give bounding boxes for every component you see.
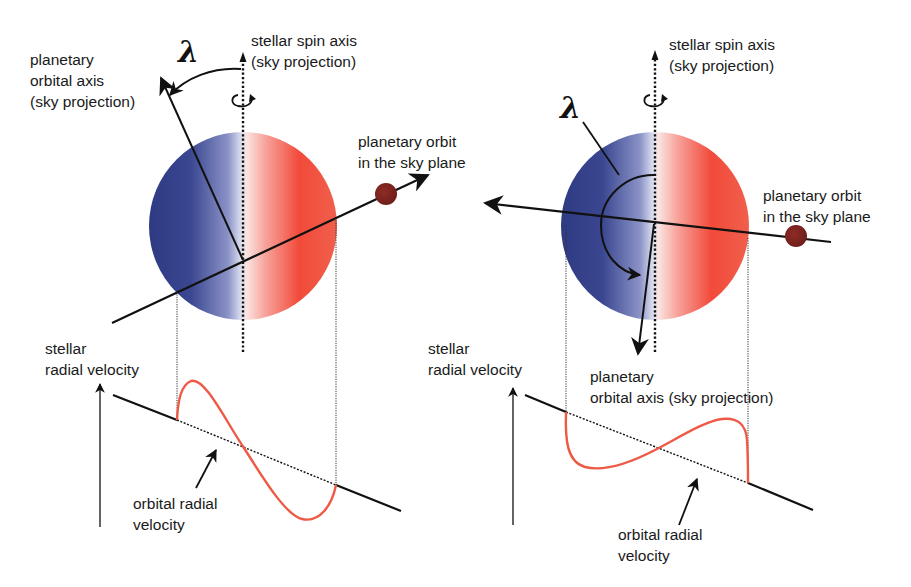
star-disk	[561, 132, 749, 320]
orbital-rv-line-before	[113, 395, 177, 420]
lambda-symbol: λ	[176, 34, 199, 69]
orbit-label-line1: planetary orbit	[763, 187, 862, 204]
orbit-label-line1: planetary orbit	[358, 133, 457, 150]
orbital-axis-label-line3: (sky projection)	[30, 93, 135, 110]
spin-axis-arrowhead-icon	[240, 52, 247, 62]
orbital-rv-label-line2: velocity	[133, 516, 185, 533]
orbital-axis-label: planetary orbital axis (sky projection)	[30, 51, 135, 110]
orbital-axis-label-line1: planetary	[30, 51, 94, 68]
orbital-rv-label: orbital radial velocity	[618, 526, 707, 564]
orbit-label: planetary orbit in the sky plane	[763, 187, 871, 225]
stellar-rv-label-line1: stellar	[428, 340, 469, 357]
orbital-axis-label: planetary orbital axis (sky projection)	[590, 368, 773, 406]
stellar-rv-label-line2: radial velocity	[428, 361, 522, 378]
lambda-symbol: λ	[558, 90, 581, 125]
orbital-rv-label-line2: velocity	[618, 547, 670, 564]
spin-axis-label-line1: stellar spin axis	[669, 36, 775, 53]
right-panel: λ stellar spin axis (sky projection) pla…	[428, 36, 871, 564]
orbital-axis-label-line2: orbital axis (sky projection)	[590, 389, 773, 406]
stellar-rv-label: stellar radial velocity	[428, 340, 522, 378]
orbital-axis-label-line1: planetary	[590, 368, 654, 385]
spin-axis-label: stellar spin axis (sky projection)	[251, 32, 361, 70]
orbit-label-line2: in the sky plane	[358, 154, 466, 171]
orbital-rv-line-after	[748, 483, 813, 510]
orbital-rv-label-line1: orbital radial	[618, 526, 702, 543]
orbital-rv-label-line1: orbital radial	[133, 495, 217, 512]
planet	[375, 183, 397, 205]
left-panel: λ stellar spin axis (sky projection) pla…	[30, 32, 466, 533]
rossiter-mclaughlin-diagram: λ stellar spin axis (sky projection) pla…	[0, 0, 911, 587]
spin-axis-label-line2: (sky projection)	[669, 57, 774, 74]
spin-axis-label-line2: (sky projection)	[251, 53, 356, 70]
stellar-rv-label-line1: stellar	[45, 340, 86, 357]
stellar-rv-label-line2: radial velocity	[45, 361, 139, 378]
orbital-rv-line-transit	[566, 412, 748, 483]
planet	[785, 225, 807, 247]
orbital-rv-label: orbital radial velocity	[133, 495, 222, 533]
spin-axis-arrowhead-icon	[652, 50, 659, 60]
orbit-label: planetary orbit in the sky plane	[358, 133, 466, 171]
stellar-rv-label: stellar radial velocity	[45, 340, 139, 378]
orbital-rv-pointer	[679, 479, 697, 525]
lambda-angle-arc	[170, 69, 241, 95]
orbit-label-line2: in the sky plane	[763, 208, 871, 225]
orbital-rv-pointer	[196, 450, 216, 488]
orbital-rv-line-after	[336, 485, 401, 511]
spin-axis-label: stellar spin axis (sky projection)	[669, 36, 779, 74]
orbital-axis-label-line2: orbital axis	[30, 72, 104, 89]
orbital-rv-line-before	[525, 395, 566, 412]
spin-axis-label-line1: stellar spin axis	[251, 32, 357, 49]
orbital-rv-line-transit	[177, 420, 336, 485]
